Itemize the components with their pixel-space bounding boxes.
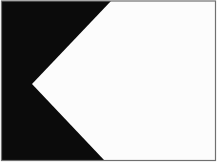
flag-graphic <box>0 0 219 166</box>
signal-flag-image <box>0 0 219 166</box>
